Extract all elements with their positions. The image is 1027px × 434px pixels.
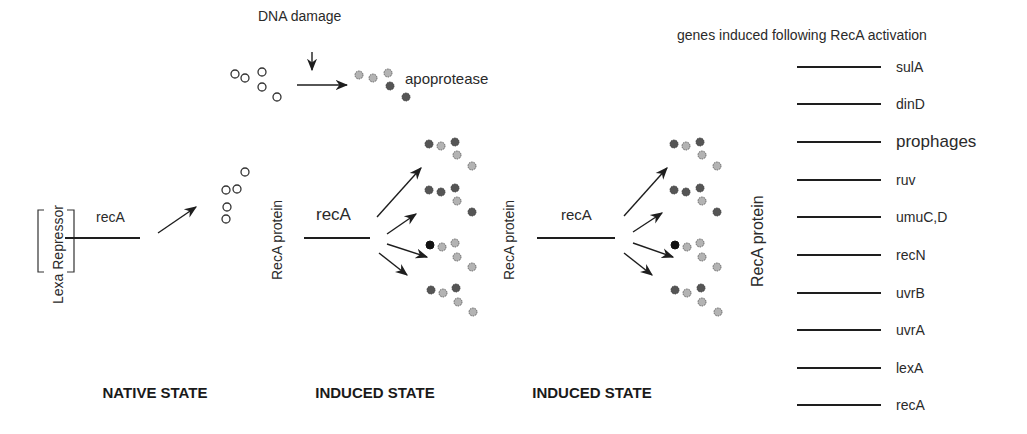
sos-response-diagram: DNA damage apoprotease Lexa Repressor re… bbox=[0, 0, 1027, 434]
expression-arrow-icon bbox=[379, 253, 407, 275]
gene-label: recA bbox=[896, 397, 925, 413]
induced-state-panel-1: recA RecA protein bbox=[304, 138, 517, 316]
gene-label: dinD bbox=[896, 96, 925, 112]
gene-row: dinD bbox=[797, 96, 925, 112]
gene-label: sulA bbox=[896, 59, 924, 75]
apoprotease-label: apoprotease bbox=[405, 70, 488, 87]
gene-label: prophages bbox=[896, 132, 976, 151]
lexa-repressor-label: Lexa Repressor bbox=[50, 205, 66, 304]
native-state-panel: Lexa Repressor recA RecA protein bbox=[38, 168, 285, 304]
genes-header: genes induced following RecA activation bbox=[677, 27, 927, 43]
reca-gene-native-label: recA bbox=[96, 209, 125, 225]
gene-row: recA bbox=[797, 397, 925, 413]
expression-arrow-icon bbox=[633, 213, 662, 232]
dna-damage-activation: DNA damage apoprotease bbox=[231, 8, 488, 101]
gene-row: sulA bbox=[797, 59, 924, 75]
gene-row: umuC,D bbox=[797, 209, 947, 225]
expression-arrow-icon bbox=[624, 168, 667, 216]
gene-row: uvrA bbox=[797, 322, 925, 338]
gene-row: recN bbox=[797, 247, 926, 263]
reca-protein-label-2: RecA protein bbox=[501, 200, 517, 280]
induced-reca-cluster-2 bbox=[670, 138, 722, 316]
state-caption: INDUCED STATE bbox=[315, 384, 434, 401]
reca-protein-label-3: RecA protein bbox=[749, 195, 766, 287]
gene-row: ruv bbox=[797, 172, 915, 188]
gene-row: uvrB bbox=[797, 285, 925, 301]
apoprotease-cluster bbox=[355, 69, 410, 101]
state-captions: NATIVE STATEINDUCED STATEINDUCED STATE bbox=[103, 384, 652, 401]
state-caption: NATIVE STATE bbox=[103, 384, 208, 401]
expression-arrow-icon bbox=[387, 244, 427, 257]
induced-gene-list: sulAdinDprophagesruvumuC,DrecNuvrBuvrAle… bbox=[797, 59, 976, 413]
gene-label: recN bbox=[896, 247, 926, 263]
gene-label: lexA bbox=[896, 360, 924, 376]
lexa-bracket-right bbox=[67, 210, 74, 272]
expression-arrow-icon bbox=[633, 243, 673, 257]
gene-label: umuC,D bbox=[896, 209, 947, 225]
reca-gene-induced-2-label: recA bbox=[561, 206, 592, 223]
expression-arrow-icon bbox=[158, 207, 196, 233]
expression-arrow-icon bbox=[377, 168, 421, 217]
reca-protein-label-1: RecA protein bbox=[269, 200, 285, 280]
gene-row: lexA bbox=[797, 360, 924, 376]
gene-label: uvrB bbox=[896, 285, 925, 301]
dna-damage-label: DNA damage bbox=[258, 8, 341, 24]
induced-reca-cluster-1 bbox=[425, 138, 477, 316]
gene-label: ruv bbox=[896, 172, 915, 188]
inactive-reca-cluster bbox=[231, 68, 281, 101]
lexa-bracket-left bbox=[38, 210, 44, 272]
reca-gene-induced-1-label: recA bbox=[316, 205, 352, 224]
gene-label: uvrA bbox=[896, 322, 925, 338]
state-caption: INDUCED STATE bbox=[532, 384, 651, 401]
gene-row: prophages bbox=[797, 132, 976, 151]
native-reca-protein-cluster bbox=[222, 168, 249, 223]
expression-arrow-icon bbox=[624, 253, 652, 275]
induced-state-panel-2: recA RecA protein bbox=[537, 138, 766, 316]
expression-arrow-icon bbox=[387, 214, 416, 234]
